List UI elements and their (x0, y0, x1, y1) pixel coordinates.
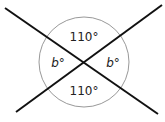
angle-diagram: 110° 110° b° b° (0, 0, 165, 122)
angle-label-bottom: 110° (70, 84, 99, 98)
angle-label-right: b° (106, 56, 120, 70)
angle-label-left: b° (51, 56, 65, 70)
angle-label-top: 110° (70, 30, 99, 44)
